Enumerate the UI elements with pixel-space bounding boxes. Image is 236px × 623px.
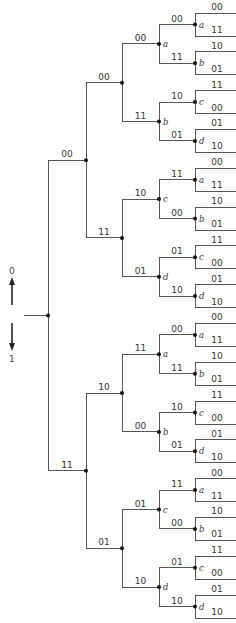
leaf-edge-label: 01	[211, 429, 222, 439]
state-label: c	[199, 408, 204, 418]
leaf-edge-label: 10	[211, 196, 223, 206]
arrow-up-icon	[9, 277, 15, 305]
edge-label: 11	[135, 111, 146, 121]
edge-label: 01	[98, 537, 109, 547]
level3-node	[157, 585, 161, 589]
up-label: 0	[9, 266, 15, 276]
level3-node	[157, 197, 161, 201]
level4-node	[193, 411, 197, 415]
edge-label: 01	[135, 499, 146, 509]
level4-node	[193, 139, 197, 143]
state-label: b	[199, 369, 204, 379]
edge-label: 11	[171, 52, 182, 62]
state-label: c	[163, 505, 168, 515]
state-label: a	[199, 20, 204, 30]
state-label: c	[199, 97, 204, 107]
leaf-edge-label: 00	[211, 312, 223, 322]
state-label: b	[199, 58, 204, 68]
leaf-edge-label: 00	[211, 568, 223, 578]
state-label: c	[199, 563, 204, 573]
leaf-edge-label: 10	[211, 351, 223, 361]
level2-node	[120, 236, 124, 240]
leaf-edge-label: 00	[211, 157, 223, 167]
level4-node	[193, 566, 197, 570]
state-label: c	[199, 252, 204, 262]
down-label: 1	[9, 354, 15, 364]
leaf-edge-label: 11	[211, 25, 222, 35]
level2-node	[120, 81, 124, 85]
edge-label: 10	[171, 402, 183, 412]
level3-node	[157, 120, 161, 124]
leaf-edge-label: 01	[211, 584, 222, 594]
leaf-edge-label: 11	[211, 80, 222, 90]
leaf-edge-label: 01	[211, 118, 222, 128]
level4-node	[193, 294, 197, 298]
edge-label: 11	[98, 227, 109, 237]
edge-label: 00	[171, 324, 183, 334]
leaf-edge-label: 01	[211, 274, 222, 284]
edge-label: 10	[171, 285, 183, 295]
level4-node	[193, 100, 197, 104]
edge-label: 00	[61, 149, 73, 159]
leaf-edge-label: 01	[211, 64, 222, 74]
level1-node	[84, 158, 88, 162]
level0-node	[46, 314, 50, 318]
level4-node	[193, 255, 197, 259]
edge-label: 10	[98, 382, 110, 392]
leaf-edge-label: 01	[211, 374, 222, 384]
edge-label: 11	[171, 479, 182, 489]
edge-label: 00	[98, 72, 110, 82]
state-label: a	[163, 39, 168, 49]
level4-node	[193, 605, 197, 609]
edge-label: 10	[171, 91, 183, 101]
level4-node	[193, 61, 197, 65]
leaf-edge-label: 10	[211, 41, 223, 51]
state-label: a	[163, 349, 168, 359]
edge-label: 01	[171, 557, 182, 567]
level4-node	[193, 449, 197, 453]
arrow-down-icon	[9, 323, 15, 351]
leaf-edge-label: 11	[211, 335, 222, 345]
state-label: c	[163, 194, 168, 204]
edge-label: 11	[171, 363, 182, 373]
level4-node	[193, 23, 197, 27]
edge-label: 01	[171, 130, 182, 140]
level4-node	[193, 217, 197, 221]
edge-label: 01	[135, 266, 146, 276]
edge-label: 00	[135, 33, 147, 43]
state-label: b	[163, 427, 168, 437]
level4-node	[193, 527, 197, 531]
leaf-edge-label: 11	[211, 491, 222, 501]
leaf-edge-label: 00	[211, 103, 223, 113]
code-tree-diagram: 0 1 00110011100100111001110001100011a100…	[0, 0, 236, 623]
state-label: b	[199, 524, 204, 534]
leaf-edge-label: 11	[211, 390, 222, 400]
level4-node	[193, 333, 197, 337]
leaf-edge-label: 11	[211, 235, 222, 245]
level3-node	[157, 42, 161, 46]
state-label: b	[163, 117, 168, 127]
level3-node	[157, 430, 161, 434]
leaf-edge-label: 01	[211, 219, 222, 229]
leaf-edge-label: 10	[211, 452, 223, 462]
edge-label: 00	[171, 518, 183, 528]
leaf-edge-label: 00	[211, 258, 223, 268]
level3-node	[157, 275, 161, 279]
edge-label: 10	[135, 576, 147, 586]
leaf-edge-label: 11	[211, 545, 222, 555]
state-label: b	[199, 214, 204, 224]
level4-node	[193, 488, 197, 492]
state-label: a	[199, 485, 204, 495]
state-label: d	[199, 136, 205, 146]
leaf-edge-label: 10	[211, 506, 223, 516]
state-label: a	[199, 175, 204, 185]
direction-legend: 0 1	[9, 266, 15, 364]
level3-node	[157, 352, 161, 356]
state-label: d	[163, 582, 169, 592]
edge-label: 00	[171, 14, 183, 24]
edge-label: 11	[61, 460, 72, 470]
edge-label: 11	[135, 343, 146, 353]
edge-label: 10	[135, 188, 147, 198]
level2-node	[120, 391, 124, 395]
edge-label: 01	[171, 246, 182, 256]
